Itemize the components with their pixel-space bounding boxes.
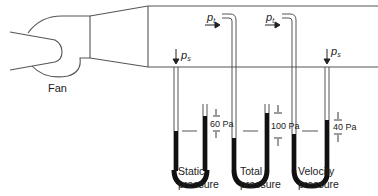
transition-duct — [90, 6, 148, 67]
manometer-total — [222, 14, 269, 186]
label-velocity-1: Velocity — [298, 165, 335, 177]
label-total-1: Total — [240, 165, 262, 177]
reading-static: 60 Pa — [210, 119, 234, 129]
probe-ps-1: ps — [180, 49, 191, 62]
label-static-1: Static — [178, 165, 204, 177]
manometer-velocity — [282, 14, 329, 186]
label-total-2: pressure — [240, 178, 281, 190]
label-static-2: pressure — [178, 178, 219, 190]
fan-inlet — [10, 32, 62, 70]
reading-velocity: 40 Pa — [333, 122, 357, 132]
fan-housing — [28, 16, 90, 77]
duct-pressure-diagram: Fan ps pt pt ps 60 Pa 100 Pa 40 Pa Stati… — [0, 0, 378, 196]
label-velocity-2: pressure — [298, 178, 339, 190]
fan-label: Fan — [48, 82, 67, 94]
reading-total: 100 Pa — [271, 121, 300, 131]
probe-ps-2: ps — [330, 45, 341, 58]
probe-pt-1: pt — [206, 11, 216, 24]
probe-pt-2: pt — [265, 11, 275, 24]
